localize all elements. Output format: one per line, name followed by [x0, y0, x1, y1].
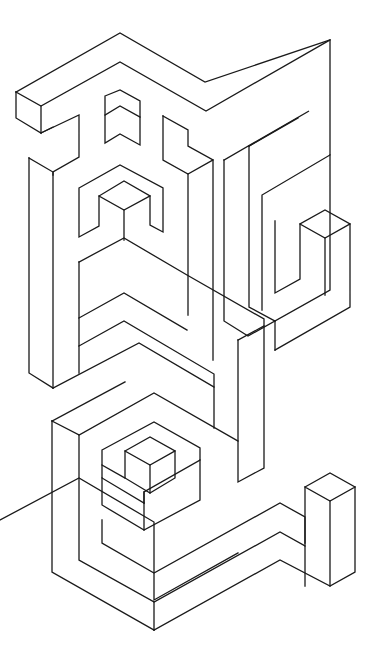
bottom-glyph-line-8 — [125, 451, 175, 465]
bottom-glyph-line-14 — [154, 532, 305, 602]
top-glyph-line-7 — [105, 90, 140, 145]
top-glyph-line-2 — [16, 92, 41, 133]
top-glyph-line-6 — [29, 158, 53, 388]
top-glyph-line-0 — [16, 33, 330, 310]
top-glyph-line-21 — [99, 196, 150, 210]
top-glyph-line-20 — [79, 165, 163, 237]
top-glyph-line-5 — [29, 158, 53, 388]
top-glyph-line-27 — [238, 326, 264, 340]
top-glyph-line-8 — [105, 106, 140, 117]
bottom-glyph — [0, 382, 355, 630]
isometric-maze-figure — [0, 0, 374, 647]
top-glyph-line-25 — [79, 318, 214, 428]
top-glyph-line-1 — [16, 40, 330, 111]
bottom-glyph-line-16 — [305, 473, 355, 501]
bottom-glyph-line-1 — [52, 421, 154, 630]
top-glyph — [16, 33, 350, 482]
top-glyph-line-4 — [41, 127, 53, 133]
bottom-glyph-line-2 — [52, 421, 154, 630]
bottom-glyph-line-6 — [102, 465, 125, 478]
bottom-glyph-line-5 — [102, 422, 200, 503]
top-glyph-line-17 — [300, 224, 350, 238]
top-glyph-line-15 — [249, 118, 298, 146]
top-glyph-line-12 — [224, 155, 330, 336]
top-glyph-line-28 — [53, 343, 214, 388]
top-glyph-line-3 — [41, 115, 79, 175]
isometric-drawing — [0, 0, 374, 647]
top-glyph-line-24 — [79, 262, 187, 330]
